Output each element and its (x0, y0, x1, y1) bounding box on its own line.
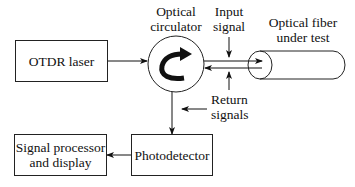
input-signal-label: Input signal (209, 4, 249, 34)
otdr-laser-label: OTDR laser (29, 54, 95, 69)
circulator-label: Optical circulator (146, 4, 206, 34)
photodetector-block: Photodetector (131, 134, 213, 176)
signal-processor-label-line1: Signal processor (16, 140, 106, 155)
otdr-laser-block: OTDR laser (15, 40, 108, 82)
photodetector-label: Photodetector (135, 148, 210, 163)
circulator-symbol (148, 36, 204, 92)
signal-processor-label-line2: and display (30, 155, 92, 170)
fiber-cylinder (248, 51, 345, 79)
signal-processor-block: Signal processor and display (14, 134, 107, 176)
return-signals-label: Return signals (211, 92, 257, 122)
fiber-label: Optical fiber under test (258, 15, 348, 45)
